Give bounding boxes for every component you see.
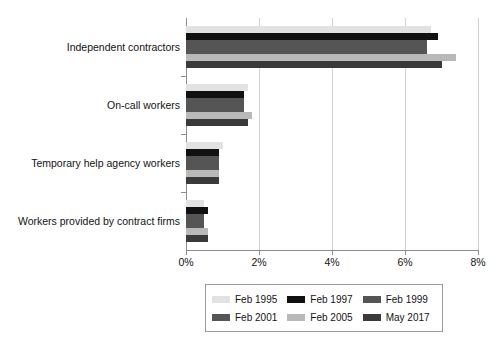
bar <box>186 40 427 47</box>
bar <box>186 105 244 112</box>
bar <box>186 156 219 163</box>
bar <box>186 119 248 126</box>
x-axis-label: 2% <box>239 256 279 268</box>
x-axis-label: 6% <box>385 256 425 268</box>
bar <box>186 84 248 91</box>
bar <box>186 214 204 221</box>
bar <box>186 228 208 235</box>
bar <box>186 91 244 98</box>
y-axis-label: Temporary help agency workers <box>0 157 180 169</box>
bar <box>186 112 252 119</box>
legend-item[interactable]: Feb 1997 <box>287 294 362 305</box>
bar-chart: Independent contractorsOn-call workersTe… <box>0 0 499 341</box>
legend-label: May 2017 <box>386 312 430 323</box>
bar <box>186 54 456 61</box>
legend-swatch <box>212 296 230 303</box>
legend-swatch <box>363 314 381 321</box>
legend-swatch <box>212 314 230 321</box>
bar <box>186 235 208 242</box>
legend-label: Feb 1995 <box>235 294 277 305</box>
legend-label: Feb 2005 <box>310 312 352 323</box>
bar-group <box>186 84 478 126</box>
legend-item[interactable]: May 2017 <box>363 312 438 323</box>
bar <box>186 170 219 177</box>
legend-item[interactable]: Feb 2005 <box>287 312 362 323</box>
legend-grid: Feb 1995Feb 1997Feb 1999Feb 2001Feb 2005… <box>212 290 438 326</box>
bar <box>186 207 208 214</box>
bar <box>186 142 223 149</box>
bar-group <box>186 200 478 242</box>
legend-label: Feb 1997 <box>310 294 352 305</box>
x-axis-tick <box>478 250 479 255</box>
legend-swatch <box>287 314 305 321</box>
bar <box>186 33 438 40</box>
chart-legend: Feb 1995Feb 1997Feb 1999Feb 2001Feb 2005… <box>205 284 443 332</box>
x-axis-label: 4% <box>312 256 352 268</box>
x-axis-tick <box>259 250 260 255</box>
plot-area <box>186 18 478 250</box>
y-axis-label: Independent contractors <box>0 41 180 53</box>
bar <box>186 177 219 184</box>
y-axis-label: On-call workers <box>0 99 180 111</box>
bar <box>186 47 427 54</box>
legend-label: Feb 2001 <box>235 312 277 323</box>
bar <box>186 98 244 105</box>
x-axis-label: 8% <box>458 256 498 268</box>
legend-item[interactable]: Feb 1995 <box>212 294 287 305</box>
bar <box>186 26 431 33</box>
bar-group <box>186 26 478 68</box>
bar <box>186 61 442 68</box>
legend-swatch <box>287 296 305 303</box>
bar <box>186 149 219 156</box>
bar-group <box>186 142 478 184</box>
legend-label: Feb 1999 <box>386 294 428 305</box>
x-axis-tick <box>405 250 406 255</box>
bar <box>186 200 204 207</box>
legend-item[interactable]: Feb 2001 <box>212 312 287 323</box>
gridline <box>478 18 479 250</box>
legend-swatch <box>363 296 381 303</box>
y-axis-label: Workers provided by contract firms <box>0 215 180 227</box>
legend-item[interactable]: Feb 1999 <box>363 294 438 305</box>
bar <box>186 163 219 170</box>
x-axis-tick <box>186 250 187 255</box>
x-axis-tick <box>332 250 333 255</box>
x-axis-label: 0% <box>166 256 206 268</box>
bar <box>186 221 204 228</box>
